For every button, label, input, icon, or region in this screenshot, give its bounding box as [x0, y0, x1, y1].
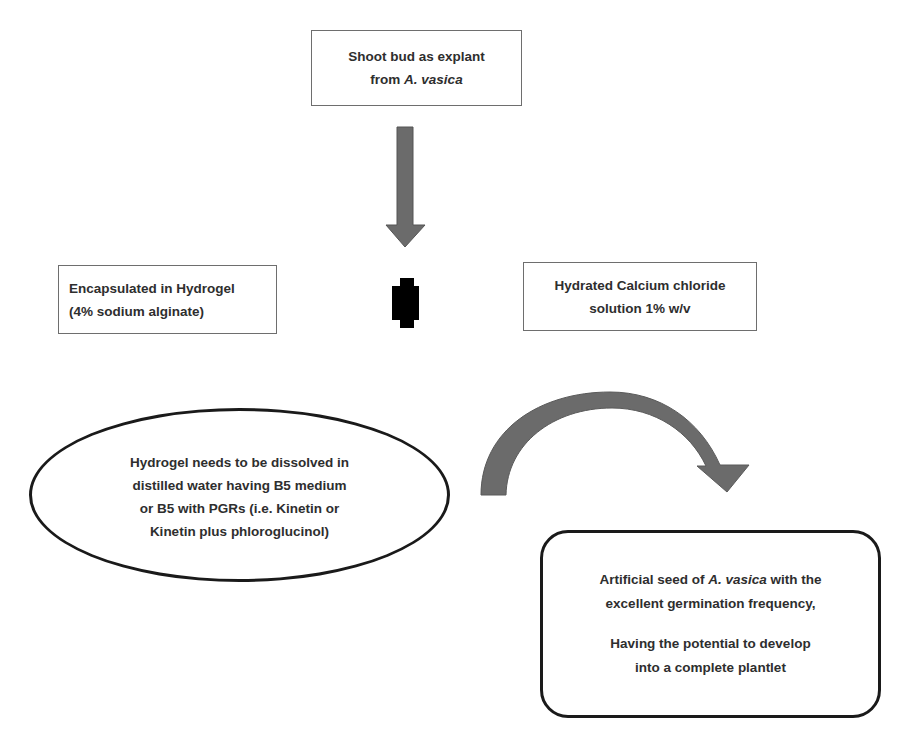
hydrogel-box: Encapsulated in Hydrogel (4% sodium algi… — [58, 265, 277, 334]
cacl2-line-2: solution 1% w/v — [589, 297, 690, 320]
seed-line-1-prefix: Artificial seed of — [599, 572, 708, 587]
hydrogel-line-1: Encapsulated in Hydrogel — [69, 277, 235, 300]
calcium-chloride-box: Hydrated Calcium chloride solution 1% w/… — [523, 262, 757, 331]
cacl2-line-1: Hydrated Calcium chloride — [554, 274, 725, 297]
dissolve-line-3: or B5 with PGRs (i.e. Kinetin or — [140, 497, 340, 520]
artificial-seed-box: Artificial seed of A. vasica with the ex… — [540, 530, 881, 718]
curved-arrow-icon — [481, 392, 749, 495]
explant-box: Shoot bud as explant from A. vasica — [311, 30, 522, 106]
species-name: A. vasica — [404, 72, 463, 87]
seed-line-2: excellent germination frequency, — [606, 592, 816, 616]
dissolve-line-1: Hydrogel needs to be dissolved in — [130, 451, 349, 474]
species-name: A. vasica — [708, 572, 767, 587]
explant-line-1: Shoot bud as explant — [348, 45, 485, 68]
explant-line-2: from A. vasica — [370, 68, 462, 91]
seed-line-3: Having the potential to develop — [610, 632, 810, 656]
seed-line-4: into a complete plantlet — [635, 656, 786, 680]
dissolve-line-2: distilled water having B5 medium — [133, 474, 347, 497]
dissolve-line-4: Kinetin plus phloroglucinol) — [150, 520, 329, 543]
dissolve-ellipse: Hydrogel needs to be dissolved in distil… — [29, 408, 450, 582]
plus-icon — [392, 278, 419, 328]
seed-line-1-suffix: with the — [767, 572, 822, 587]
explant-line-2-prefix: from — [370, 72, 404, 87]
hydrogel-line-2: (4% sodium alginate) — [69, 300, 204, 323]
down-arrow-icon — [386, 127, 425, 247]
seed-line-1: Artificial seed of A. vasica with the — [599, 568, 821, 592]
